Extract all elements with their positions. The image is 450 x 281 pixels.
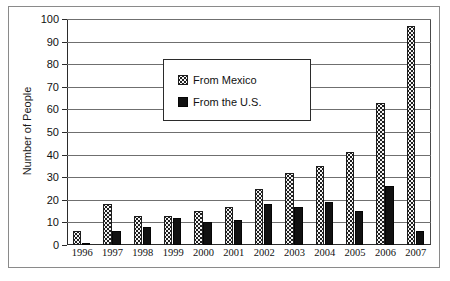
- y-axis-tick-label: 10: [47, 216, 59, 228]
- bar-group: [97, 19, 127, 245]
- y-axis-tick-label: 90: [47, 36, 59, 48]
- bar-group: [340, 19, 370, 245]
- bar-from-us: [173, 218, 181, 245]
- bar-group: [219, 19, 249, 245]
- y-axis-tick-label: 70: [47, 81, 59, 93]
- bar-from-mexico: [103, 204, 111, 245]
- bar-from-us: [82, 243, 90, 245]
- x-axis-tick-labels: 1996199719981999200020012002200320042005…: [67, 247, 431, 265]
- bar-group: [310, 19, 340, 245]
- y-axis-tick-label: 40: [47, 149, 59, 161]
- bar-group: [370, 19, 400, 245]
- chart-legend: From Mexico From the U.S.: [163, 59, 311, 121]
- bar-from-us: [385, 186, 393, 245]
- bar-from-mexico: [134, 216, 142, 245]
- bar-group: [158, 19, 188, 245]
- bar-from-mexico: [407, 26, 415, 245]
- legend-label-from-us: From the U.S.: [193, 96, 261, 108]
- bar-group: [128, 19, 158, 245]
- x-axis-tick-label: 2007: [401, 247, 431, 265]
- bar-group: [67, 19, 97, 245]
- x-axis-tick-label: 1996: [67, 247, 97, 265]
- bar-from-mexico: [164, 216, 172, 245]
- y-axis-title: Number of People: [21, 51, 33, 211]
- bar-from-mexico: [194, 211, 202, 245]
- bar-from-us: [234, 220, 242, 245]
- y-axis-tick-label: 100: [41, 13, 59, 25]
- bar-group: [279, 19, 309, 245]
- x-axis-tick-label: 2000: [188, 247, 218, 265]
- legend-label-from-mexico: From Mexico: [193, 74, 257, 86]
- bar-from-mexico: [346, 152, 354, 245]
- x-axis-tick-label: 2002: [249, 247, 279, 265]
- bar-from-mexico: [255, 189, 263, 246]
- x-axis-tick-label: 1997: [97, 247, 127, 265]
- x-axis-tick-label: 1998: [128, 247, 158, 265]
- bar-from-mexico: [316, 166, 324, 245]
- bar-from-mexico: [225, 207, 233, 245]
- y-axis-tick-label: 80: [47, 58, 59, 70]
- bar-from-us: [355, 211, 363, 245]
- bar-from-us: [325, 202, 333, 245]
- bar-from-us: [203, 222, 211, 245]
- legend-swatch-mexico-icon: [178, 75, 188, 85]
- y-axis-tick: [62, 245, 67, 246]
- x-axis-tick-label: 2005: [340, 247, 370, 265]
- bar-from-mexico: [285, 173, 293, 245]
- legend-item-from-us: From the U.S.: [178, 91, 310, 113]
- bar-from-mexico: [376, 103, 384, 245]
- y-axis-tick-label: 30: [47, 171, 59, 183]
- bar-from-us: [294, 207, 302, 245]
- x-axis-tick-label: 2006: [370, 247, 400, 265]
- chart-frame: Number of People 0102030405060708090100 …: [8, 6, 440, 268]
- legend-swatch-us-icon: [178, 97, 188, 107]
- bar-from-us: [143, 227, 151, 245]
- bar-from-us: [264, 204, 272, 245]
- x-axis-tick-label: 1999: [158, 247, 188, 265]
- bar-group: [249, 19, 279, 245]
- x-axis-tick-label: 2003: [279, 247, 309, 265]
- y-axis-tick-label: 60: [47, 103, 59, 115]
- legend-item-from-mexico: From Mexico: [178, 69, 310, 91]
- x-axis-tick-label: 2004: [310, 247, 340, 265]
- bar-group: [188, 19, 218, 245]
- bar-from-mexico: [73, 231, 81, 245]
- y-axis-tick-label: 20: [47, 194, 59, 206]
- y-axis-title-wrap: Number of People: [9, 7, 43, 257]
- bar-from-us: [112, 231, 120, 245]
- bar-group: [401, 19, 431, 245]
- bar-from-us: [416, 231, 424, 245]
- x-axis-tick-label: 2001: [219, 247, 249, 265]
- plot-area: 0102030405060708090100 From Mexico From …: [67, 19, 431, 245]
- y-axis-tick-label: 50: [47, 126, 59, 138]
- y-axis-tick-label: 0: [53, 239, 59, 251]
- bar-groups: [67, 19, 431, 245]
